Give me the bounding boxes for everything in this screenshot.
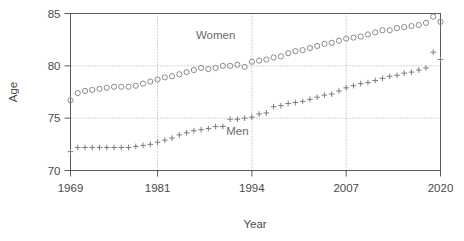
data-point — [162, 75, 167, 80]
data-point — [373, 30, 378, 35]
y-tick-label: 75 — [48, 112, 61, 124]
data-point — [365, 32, 370, 37]
data-point — [423, 20, 428, 25]
data-point — [191, 67, 196, 72]
annotation-women: Women — [196, 29, 235, 41]
y-tick-label: 70 — [48, 165, 61, 177]
data-point — [431, 14, 436, 19]
data-point — [329, 40, 334, 45]
series-men — [68, 49, 444, 154]
data-point — [387, 28, 392, 33]
data-point — [111, 84, 116, 89]
x-tick-label: 1994 — [239, 182, 265, 194]
data-point — [235, 62, 240, 67]
data-point — [293, 49, 298, 54]
life-expectancy-chart: 70758085 19691981199420072020 Women Men … — [0, 0, 464, 241]
data-point — [133, 83, 138, 88]
data-point — [148, 79, 153, 84]
data-point — [97, 86, 102, 91]
data-point — [82, 88, 87, 93]
data-point — [264, 57, 269, 62]
y-axis-ticks: 70758085 — [48, 8, 71, 177]
data-point — [286, 51, 291, 56]
data-point — [336, 38, 341, 43]
data-point — [90, 87, 95, 92]
annotation-men: Men — [226, 125, 248, 137]
x-tick-label: 1981 — [145, 182, 171, 194]
plot-frame — [71, 14, 441, 171]
data-point — [351, 35, 356, 40]
x-tick-label: 2020 — [428, 182, 454, 194]
y-axis-title: Age — [7, 82, 19, 102]
series-women — [68, 14, 443, 103]
data-point — [177, 72, 182, 77]
y-tick-label: 80 — [48, 60, 61, 72]
data-point — [416, 22, 421, 27]
gridlines — [71, 14, 441, 171]
y-tick-label: 85 — [48, 8, 61, 20]
x-axis-title: Year — [243, 218, 266, 230]
data-point — [184, 70, 189, 75]
data-point — [315, 43, 320, 48]
data-point — [278, 54, 283, 59]
data-point — [402, 25, 407, 30]
data-point — [119, 84, 124, 89]
data-point — [380, 28, 385, 33]
data-point — [300, 48, 305, 53]
data-point — [75, 90, 80, 95]
x-tick-label: 2007 — [333, 182, 359, 194]
data-point — [344, 36, 349, 41]
data-point — [257, 58, 262, 63]
x-tick-label: 1969 — [58, 182, 84, 194]
data-point — [126, 84, 131, 89]
x-axis-ticks: 19691981199420072020 — [58, 171, 454, 194]
data-point — [409, 23, 414, 28]
data-point — [271, 55, 276, 60]
data-point — [104, 85, 109, 90]
data-point — [307, 45, 312, 50]
data-point — [198, 65, 203, 70]
data-point — [213, 65, 218, 70]
data-point — [358, 34, 363, 39]
data-point — [206, 66, 211, 71]
chart-canvas: 70758085 19691981199420072020 Women Men … — [0, 0, 464, 241]
data-point — [242, 64, 247, 69]
data-point — [140, 81, 145, 86]
data-point — [155, 77, 160, 82]
data-point — [322, 41, 327, 46]
data-point — [169, 74, 174, 79]
data-point — [394, 26, 399, 31]
